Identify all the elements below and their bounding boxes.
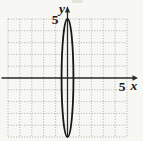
graph-canvas: y 5 5 x: [0, 0, 143, 141]
x-tick-label-5: 5: [119, 79, 126, 94]
y-tick-label-5: 5: [52, 12, 59, 27]
axis-labels: y 5 5 x: [52, 1, 138, 95]
x-axis-label: x: [130, 78, 138, 93]
y-axis-arrowhead: [65, 6, 70, 13]
ellipse-graph-figure: y 5 5 x: [0, 0, 143, 141]
